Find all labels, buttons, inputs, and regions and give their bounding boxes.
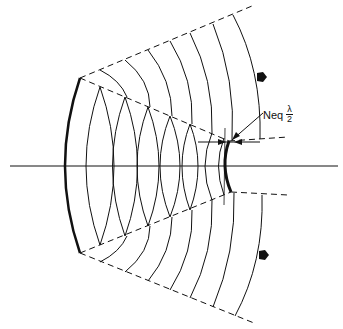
resonator-diagram	[0, 0, 343, 329]
beam-boundaries	[80, 6, 288, 323]
fraction-denominator: 2	[287, 115, 292, 124]
dimension-arrow-right-icon	[234, 139, 242, 145]
label-neq-lambda-half: Neq λ 2	[263, 105, 293, 124]
leader-arrow-icon	[232, 132, 240, 140]
label-text: Neq	[263, 109, 283, 121]
lambda-fraction: λ 2	[286, 105, 293, 124]
direction-arrow-top-icon	[257, 72, 267, 82]
reference-line	[224, 128, 225, 205]
direction-arrow-bottom-icon	[259, 250, 269, 260]
